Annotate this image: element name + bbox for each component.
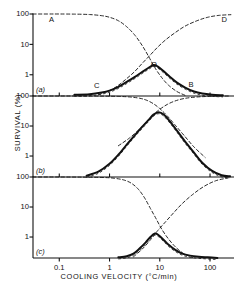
x-tick-label-0: 0.1 bbox=[47, 263, 71, 272]
y-tick-label-b-1: 10 bbox=[2, 121, 29, 130]
curve-a-survival bbox=[74, 65, 222, 95]
curve-a-D bbox=[98, 15, 231, 95]
curve-c-D bbox=[134, 178, 229, 257]
x-tick-label-2: 10 bbox=[148, 263, 172, 272]
survival-vs-cooling-velocity-chart bbox=[0, 0, 238, 287]
y-tick-label-b-0: 1 bbox=[2, 151, 29, 160]
figure-root: SURVIVAL (%) COOLING VELOCITY (°C/min) 1… bbox=[0, 0, 238, 287]
y-tick-label-a-0: 1 bbox=[2, 70, 29, 79]
curve-annotation-a-D: D bbox=[222, 15, 227, 24]
panel-label-b: (b) bbox=[36, 166, 45, 175]
y-tick-label-c-2: 100 bbox=[2, 172, 29, 181]
y-tick-label-b-2: 100 bbox=[2, 91, 29, 100]
curve-c-survival-dashed-twin bbox=[118, 235, 217, 259]
curve-annotation-a-A: A bbox=[49, 15, 54, 24]
curve-annotation-a-O: O bbox=[151, 60, 157, 69]
x-tick-label-1: 1 bbox=[98, 263, 122, 272]
curve-b-A bbox=[33, 96, 205, 157]
curve-annotation-a-B: B bbox=[189, 80, 194, 89]
curve-b-D bbox=[118, 96, 230, 146]
x-tick-label-3: 100 bbox=[198, 263, 222, 272]
y-tick-label-a-1: 10 bbox=[2, 40, 29, 49]
curve-a-A bbox=[33, 14, 185, 95]
y-tick-label-a-2: 100 bbox=[2, 9, 29, 18]
panel-label-a: (a) bbox=[36, 85, 45, 94]
y-tick-label-c-0: 1 bbox=[2, 232, 29, 241]
y-tick-label-c-1: 10 bbox=[2, 202, 29, 211]
curve-annotation-a-C: C bbox=[94, 81, 99, 90]
x-axis-label: COOLING VELOCITY (°C/min) bbox=[0, 272, 238, 281]
panel-label-c: (c) bbox=[36, 247, 45, 256]
curve-c-survival bbox=[118, 234, 217, 258]
